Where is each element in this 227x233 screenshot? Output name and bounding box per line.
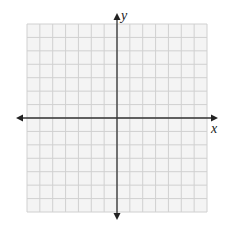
y-axis-down-arrow-icon — [114, 213, 121, 220]
x-axis-label: x — [210, 121, 218, 136]
x-axis-left-arrow-icon — [16, 115, 23, 122]
y-axis-label: y — [119, 8, 128, 23]
y-axis-up-arrow-icon — [114, 13, 121, 20]
coordinate-plane: x y — [0, 0, 227, 233]
